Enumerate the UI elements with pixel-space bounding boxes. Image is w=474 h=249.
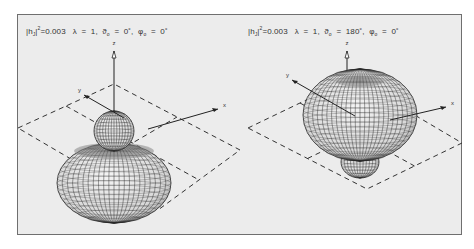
- y-axis-label: y: [78, 87, 81, 93]
- z-axis-label: z: [346, 40, 349, 46]
- x-axis: [148, 109, 218, 129]
- y-axis-label: y: [286, 72, 289, 78]
- panel-theta-0: |hJ|2=0.003 λ = 1, ϑo = 0˚, φo = 0˚ zyx: [18, 15, 240, 234]
- lobe: [94, 111, 134, 151]
- x-axis-label: x: [223, 102, 226, 108]
- radiation-pattern-plot: zyx: [240, 15, 462, 234]
- x-axis-label: x: [451, 100, 454, 106]
- z-axis-arrow: [112, 51, 116, 58]
- figure-frame: |hJ|2=0.003 λ = 1, ϑo = 0˚, φo = 0˚ zyx …: [17, 14, 462, 235]
- z-axis-arrow: [345, 51, 349, 58]
- radiation-pattern-plot: zyx: [18, 15, 240, 234]
- panel-theta-180: |hJ|2=0.003 λ = 1, ϑo = 180˚, φo = 0˚ zy…: [240, 15, 462, 234]
- lobe-top-shading: [336, 75, 384, 87]
- z-axis-label: z: [113, 40, 116, 46]
